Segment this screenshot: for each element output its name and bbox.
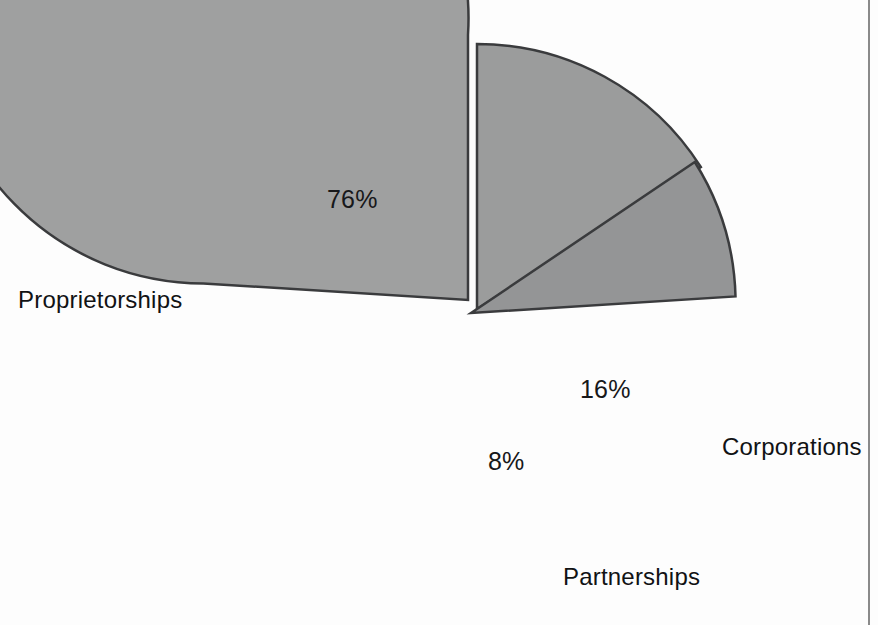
pie-chart-figure: (b) 76% 16% 8% Proprietorships Corporati… bbox=[0, 0, 878, 625]
pie-slice-proprietorships[interactable] bbox=[0, 0, 469, 300]
slice-value-partnerships: 8% bbox=[488, 447, 525, 476]
category-label-partnerships: Partnerships bbox=[563, 563, 700, 591]
category-label-corporations: Corporations bbox=[722, 433, 862, 461]
category-label-proprietorships: Proprietorships bbox=[18, 286, 182, 314]
page-border-rule bbox=[868, 0, 870, 625]
slice-value-corporations: 16% bbox=[580, 375, 631, 404]
slice-value-proprietorships: 76% bbox=[327, 185, 378, 214]
